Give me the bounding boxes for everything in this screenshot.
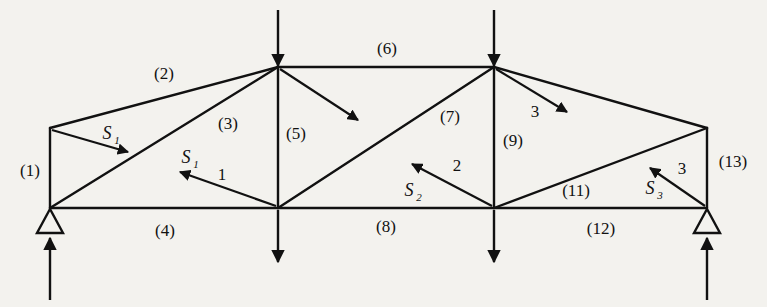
force-label-s2-sub: 2 bbox=[416, 191, 422, 203]
member-label-3: (3) bbox=[218, 114, 238, 133]
member-label-11: (11) bbox=[562, 181, 590, 200]
force-label-s1-upper-base: S bbox=[103, 123, 112, 143]
truss-svg: (1) (2) (3) (4) (5) (6) (7) (8) (9) (11)… bbox=[0, 0, 767, 307]
force-label-s1-upper-sub: 1 bbox=[114, 134, 120, 146]
member-label-9: (9) bbox=[503, 131, 523, 150]
member-label-8: (8) bbox=[376, 217, 396, 236]
member-label-5: (5) bbox=[286, 124, 306, 143]
section-label-3-upper: 3 bbox=[531, 102, 540, 121]
member-label-12: (12) bbox=[587, 219, 615, 238]
force-label-s1-lower-base: S bbox=[182, 147, 191, 167]
member-label-1: (1) bbox=[20, 161, 40, 180]
force-label-s1-lower-sub: 1 bbox=[193, 158, 199, 170]
section-label-3-lower: 3 bbox=[678, 159, 687, 178]
member-label-6: (6) bbox=[377, 39, 397, 58]
member-label-2: (2) bbox=[154, 64, 174, 83]
section-label-1: 1 bbox=[218, 165, 227, 184]
force-label-s3-base: S bbox=[646, 178, 655, 198]
force-label-s2-base: S bbox=[405, 180, 414, 200]
member-label-7: (7) bbox=[440, 107, 460, 126]
section-label-2: 2 bbox=[453, 156, 462, 175]
truss-diagram-canvas: (1) (2) (3) (4) (5) (6) (7) (8) (9) (11)… bbox=[0, 0, 767, 307]
member-label-4: (4) bbox=[155, 221, 175, 240]
member-label-13: (13) bbox=[719, 152, 747, 171]
force-label-s3-sub: 3 bbox=[656, 189, 663, 201]
